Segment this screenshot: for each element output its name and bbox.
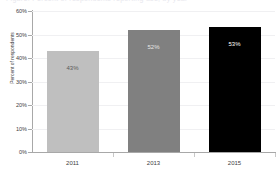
- y-axis-tick: [28, 58, 32, 59]
- y-axis-tick-label: 40%: [0, 55, 27, 61]
- x-axis-tick: [113, 153, 114, 157]
- x-axis-tick: [194, 153, 195, 157]
- y-axis-tick: [28, 11, 32, 12]
- chart-title-text: Figure: Percent of respondents reporting…: [6, 0, 188, 2]
- bar-value-label-2015: 53%: [209, 40, 261, 48]
- x-axis-tick: [275, 153, 276, 157]
- x-axis-tick-label-2015: 2015: [205, 159, 265, 167]
- x-axis-tick-label-2013: 2013: [124, 159, 184, 167]
- y-axis-tick: [28, 152, 32, 153]
- bar-2011[interactable]: 43%: [47, 51, 99, 152]
- chart-title-remnant: Figure: Percent of respondents reporting…: [0, 0, 278, 5]
- y-axis-tick-label: 10%: [0, 126, 27, 132]
- y-axis-tick: [28, 105, 32, 106]
- y-axis-tick: [28, 82, 32, 83]
- gridline: [32, 11, 275, 12]
- bar-chart: Figure: Percent of respondents reporting…: [0, 0, 278, 171]
- bar-2015[interactable]: 53%: [209, 27, 261, 152]
- y-axis-tick: [28, 129, 32, 130]
- y-axis-tick-label: 60%: [0, 8, 27, 14]
- bar-value-label-2013: 52%: [128, 43, 180, 51]
- bar-value-label-2011: 43%: [47, 64, 99, 72]
- y-axis-tick-label: 20%: [0, 102, 27, 108]
- x-axis-tick-label-2011: 2011: [43, 159, 103, 167]
- plot-area: 43%52%53%: [32, 11, 275, 152]
- y-axis-tick-label: 30%: [0, 79, 27, 85]
- bar-2013[interactable]: 52%: [128, 30, 180, 152]
- y-axis-tick-label: 0%: [0, 149, 27, 155]
- y-axis-tick: [28, 35, 32, 36]
- y-axis-tick-label: 50%: [0, 32, 27, 38]
- x-axis-line: [32, 152, 276, 153]
